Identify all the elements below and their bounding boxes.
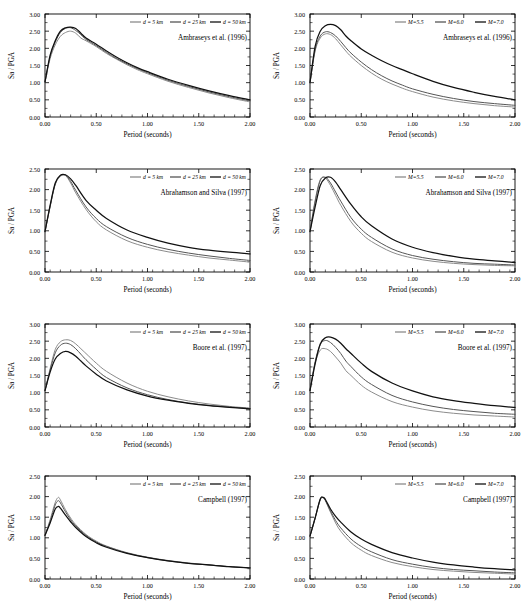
y-axis-title: Sa / PGA: [273, 513, 281, 541]
y-tick-label: 1.00: [29, 227, 40, 234]
x-tick-label: 1.50: [458, 275, 469, 282]
panel-caption: Campbell (1997): [198, 496, 248, 504]
x-axis-title: Period (seconds): [388, 131, 437, 139]
panel-caption: Ambraseys et al. (1996): [443, 34, 513, 42]
legend-label: d = 50 km: [223, 19, 246, 25]
y-tick-label: 1.00: [294, 227, 305, 234]
y-tick-label: 2.00: [294, 493, 305, 500]
panel-caption: Abrahamson and Silva (1997): [161, 189, 248, 197]
x-tick-label: 1.00: [407, 120, 418, 127]
x-axis-title: Period (seconds): [388, 593, 437, 601]
y-tick-label: 1.50: [294, 62, 305, 69]
y-tick-label: 1.00: [29, 79, 40, 86]
legend-label: M=7.0: [487, 329, 504, 335]
y-tick-label: 0.50: [29, 248, 40, 255]
y-tick-label: 2.50: [294, 166, 305, 173]
x-tick-label: 0.50: [91, 275, 102, 282]
x-tick-label: 1.00: [142, 120, 153, 127]
y-tick-label: 1.00: [294, 389, 305, 396]
legend-label: d = 25 km: [183, 19, 206, 25]
y-tick-label: 2.00: [294, 355, 305, 362]
y-tick-label: 2.50: [29, 166, 40, 173]
legend-label: M=6.0: [447, 329, 464, 335]
x-tick-label: 0.50: [356, 430, 367, 437]
x-tick-label: 0.50: [356, 582, 367, 589]
y-tick-label: 1.50: [294, 207, 305, 214]
x-axis-title: Period (seconds): [123, 441, 172, 449]
y-tick-label: 1.50: [29, 514, 40, 521]
legend-label: d = 5 km: [143, 19, 163, 25]
y-tick-label: 0.50: [294, 248, 305, 255]
y-tick-label: 0.50: [29, 96, 40, 103]
y-tick-label: 1.00: [29, 534, 40, 541]
y-axis-title: Sa / PGA: [8, 51, 16, 79]
legend-label: M=7.0: [487, 19, 504, 25]
legend-label: M=6.0: [447, 174, 464, 180]
y-tick-label: 2.00: [294, 186, 305, 193]
x-tick-label: 0.50: [91, 120, 102, 127]
x-tick-label: 2.00: [510, 430, 521, 437]
x-tick-label: 0.00: [40, 120, 51, 127]
x-tick-label: 1.50: [458, 582, 469, 589]
plot-frame: [310, 324, 515, 427]
x-tick-label: 0.00: [40, 275, 51, 282]
series-line: [310, 497, 515, 570]
y-tick-label: 0.00: [294, 424, 305, 431]
series-line: [310, 34, 515, 107]
y-tick-label: 0.00: [29, 269, 40, 276]
legend-label: M=5.5: [407, 19, 424, 25]
x-tick-label: 1.50: [193, 275, 204, 282]
legend-label: d = 25 km: [183, 329, 206, 335]
x-tick-label: 1.00: [407, 582, 418, 589]
y-tick-label: 0.00: [294, 576, 305, 583]
panel-campbell-distance: 0.000.501.001.502.002.500.000.501.001.50…: [0, 462, 264, 614]
legend-label: M=5.5: [407, 174, 424, 180]
x-tick-label: 1.00: [142, 430, 153, 437]
series-line: [310, 497, 515, 572]
x-tick-label: 1.50: [458, 120, 469, 127]
panel-ambraseys-distance: 0.000.501.001.502.002.503.000.000.501.00…: [0, 0, 264, 152]
y-tick-label: 1.00: [29, 389, 40, 396]
legend-label: M=7.0: [487, 481, 504, 487]
panel-caption: Ambraseys et al. (1996): [178, 34, 248, 42]
plot-frame: [45, 14, 250, 117]
panel-caption: Boore et al. (1997): [193, 344, 248, 352]
x-tick-label: 1.50: [458, 430, 469, 437]
x-tick-label: 1.50: [193, 120, 204, 127]
legend-label: M=6.0: [447, 19, 464, 25]
y-axis-title: Sa / PGA: [8, 513, 16, 541]
legend-label: d = 50 km: [223, 174, 246, 180]
series-line: [45, 174, 250, 254]
y-axis-title: Sa / PGA: [8, 206, 16, 234]
x-axis-title: Period (seconds): [388, 286, 437, 294]
y-tick-label: 0.00: [294, 114, 305, 121]
panel-caption: Boore et al. (1997): [458, 344, 513, 352]
x-tick-label: 2.00: [245, 275, 256, 282]
x-tick-label: 1.50: [193, 582, 204, 589]
legend-label: d = 25 km: [183, 481, 206, 487]
y-tick-label: 0.00: [29, 424, 40, 431]
y-tick-label: 1.50: [294, 372, 305, 379]
x-tick-label: 0.00: [305, 275, 316, 282]
x-tick-label: 1.50: [193, 430, 204, 437]
y-tick-label: 2.50: [29, 473, 40, 480]
legend-label: d = 5 km: [143, 174, 163, 180]
legend-label: d = 5 km: [143, 329, 163, 335]
x-tick-label: 0.00: [305, 430, 316, 437]
x-axis-title: Period (seconds): [388, 441, 437, 449]
panel-boore-distance: 0.000.501.001.502.002.503.000.000.501.00…: [0, 310, 264, 462]
series-line: [45, 351, 250, 408]
y-tick-label: 0.50: [294, 406, 305, 413]
x-tick-label: 0.50: [91, 582, 102, 589]
series-line: [310, 348, 515, 417]
legend-label: M=5.5: [407, 329, 424, 335]
x-tick-label: 2.00: [245, 430, 256, 437]
series-line: [310, 498, 515, 575]
y-tick-label: 2.50: [29, 28, 40, 35]
y-tick-label: 0.50: [294, 96, 305, 103]
x-axis-title: Period (seconds): [123, 286, 172, 294]
y-tick-label: 3.00: [294, 11, 305, 18]
legend-label: M=6.0: [447, 481, 464, 487]
plot-frame: [310, 169, 515, 272]
x-tick-label: 2.00: [510, 582, 521, 589]
